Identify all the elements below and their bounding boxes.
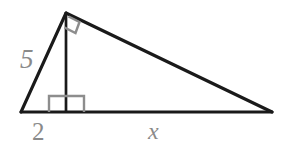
label-segment-left: 2 bbox=[32, 118, 45, 145]
label-leg-left: 5 bbox=[20, 44, 34, 74]
geometry-figure: 5 2 x bbox=[0, 0, 284, 146]
triangle-hypotenuse bbox=[66, 13, 272, 112]
label-segment-right: x bbox=[147, 118, 159, 144]
triangle-diagram-canvas: 5 2 x bbox=[0, 0, 284, 146]
